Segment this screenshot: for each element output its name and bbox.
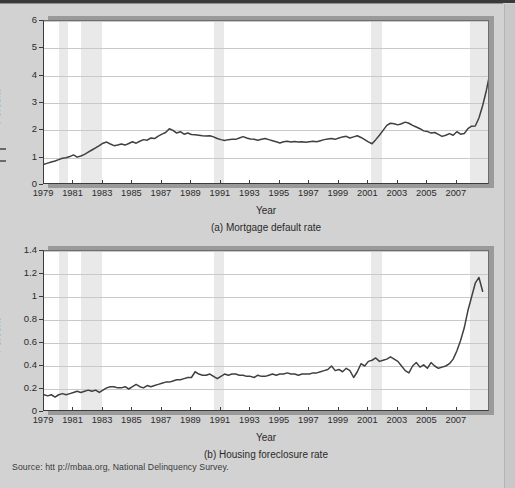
series-path-b-0 [44,277,483,397]
y-tick-label-a-2: 2 [3,124,37,133]
x-tick-mark-b-4 [161,407,162,411]
x-tick-mark-a-4 [161,180,162,184]
x-tick-mark-a-12 [397,180,398,184]
y-tick-label-a-5: 5 [3,42,37,51]
y-tick-mark-b-6 [39,273,43,274]
x-tick-mark-a-3 [131,180,132,184]
x-tick-mark-a-14 [456,180,457,184]
plot-area-housing-foreclosure-rate [43,250,489,411]
y-tick-label-b-4: 0.8 [3,314,37,323]
y-tick-mark-a-0 [39,184,43,185]
x-tick-mark-b-0 [43,407,44,411]
x-tick-mark-b-5 [190,407,191,411]
x-tick-mark-a-10 [338,180,339,184]
y-tick-label-a-3: 3 [3,97,37,106]
x-tick-mark-b-10 [338,407,339,411]
x-tick-mark-b-11 [367,407,368,411]
y-tick-mark-b-4 [39,319,43,320]
y-tick-label-b-0: 0 [3,406,37,415]
series-path-a-0 [44,73,489,164]
x-tick-mark-b-2 [102,407,103,411]
y-tick-mark-a-5 [39,47,43,48]
y-axis-label-a: Percent [0,90,2,124]
x-tick-mark-a-7 [249,180,250,184]
y-axis-label-b: Percent [0,318,2,352]
x-tick-mark-a-11 [367,180,368,184]
y-tick-label-a-1: 1 [3,152,37,161]
y-tick-mark-a-1 [39,157,43,158]
x-tick-mark-b-7 [249,407,250,411]
y-tick-mark-a-6 [39,20,43,21]
y-tick-mark-b-2 [39,365,43,366]
x-tick-mark-a-2 [102,180,103,184]
x-tick-mark-b-12 [397,407,398,411]
y-tick-label-b-6: 1.2 [3,268,37,277]
y-tick-mark-b-1 [39,388,43,389]
y-tick-label-a-6: 6 [3,15,37,24]
y-tick-label-b-7: 1.4 [3,245,37,254]
x-axis-label-a: Year [43,205,489,216]
x-tick-mark-b-9 [308,407,309,411]
source-note: Source: htt p://mbaa.org, National Delin… [12,462,229,472]
x-tick-mark-a-8 [279,180,280,184]
x-tick-mark-a-13 [426,180,427,184]
y-tick-label-b-3: 0.6 [3,337,37,346]
x-tick-mark-b-1 [72,407,73,411]
y-tick-label-b-2: 0.4 [3,360,37,369]
plot-area-mortgage-default-rate [43,20,489,184]
chart-panel-housing-foreclosure-rate: 00.20.40.60.811.21.4 1979198119831985198… [0,232,515,482]
panel-caption-b: (b) Housing foreclosure rate [43,449,489,460]
x-tick-mark-a-0 [43,180,44,184]
x-tick-mark-a-5 [190,180,191,184]
series-line-mortgage-default-rate [44,21,489,184]
chart-panel-mortgage-default-rate: 0123456 19791981198319851987198919911993… [0,0,515,244]
x-tick-mark-b-8 [279,407,280,411]
y-tick-label-b-5: 1 [3,291,37,300]
y-tick-mark-b-3 [39,342,43,343]
x-tick-label-a-14: 2007 [438,188,474,198]
y-tick-mark-b-0 [39,411,43,412]
figure-page: 0123456 19791981198319851987198919911993… [0,0,515,488]
y-tick-mark-b-7 [39,250,43,251]
x-tick-mark-b-3 [131,407,132,411]
x-tick-mark-b-6 [220,407,221,411]
y-tick-mark-a-2 [39,129,43,130]
y-tick-mark-b-5 [39,296,43,297]
x-tick-mark-b-13 [426,407,427,411]
x-axis-label-b: Year [43,432,489,443]
y-tick-mark-a-3 [39,102,43,103]
y-tick-mark-a-4 [39,75,43,76]
x-tick-mark-b-14 [456,407,457,411]
x-tick-mark-a-6 [220,180,221,184]
x-tick-mark-a-1 [72,180,73,184]
x-tick-mark-a-9 [308,180,309,184]
y-tick-label-a-0: 0 [3,179,37,188]
x-tick-label-b-14: 2007 [438,415,474,425]
y-tick-label-a-4: 4 [3,70,37,79]
series-line-housing-foreclosure-rate [44,251,489,411]
y-tick-label-b-1: 0.2 [3,383,37,392]
